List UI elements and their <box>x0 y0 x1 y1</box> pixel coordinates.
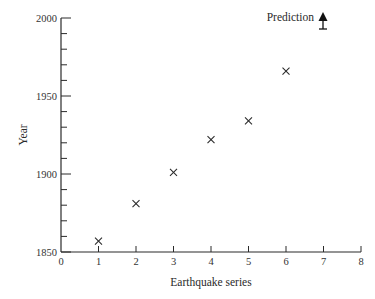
y-tick-label: 1850 <box>36 247 57 258</box>
prediction-legend: Prediction <box>267 11 328 29</box>
data-point-x-marker <box>245 117 252 124</box>
x-tick-label: 6 <box>283 256 288 267</box>
y-tick-label: 2000 <box>36 13 57 24</box>
x-tick-label: 5 <box>246 256 251 267</box>
x-tick-label: 0 <box>58 256 63 267</box>
data-point-x-marker <box>133 200 140 207</box>
data-point-x-marker <box>208 136 215 143</box>
scatter-chart: 1850190019502000012345678 Prediction Ear… <box>0 0 375 299</box>
x-tick-label: 8 <box>358 256 363 267</box>
x-tick-label: 2 <box>133 256 138 267</box>
data-points <box>95 68 290 245</box>
prediction-label: Prediction <box>267 11 315 23</box>
x-tick-label: 4 <box>208 256 214 267</box>
data-point-x-marker <box>170 169 177 176</box>
axes: 1850190019502000012345678 <box>36 13 364 268</box>
y-tick-label: 1950 <box>36 91 57 102</box>
x-axis-title: Earthquake series <box>170 276 252 289</box>
x-tick-label: 1 <box>96 256 101 267</box>
data-point-x-marker <box>283 68 290 75</box>
y-axis-title: Year <box>17 124 29 145</box>
y-tick-label: 1900 <box>36 169 57 180</box>
x-tick-label: 3 <box>171 256 176 267</box>
data-point-x-marker <box>95 238 102 245</box>
prediction-arrow-icon <box>319 12 328 29</box>
x-tick-label: 7 <box>321 256 326 267</box>
